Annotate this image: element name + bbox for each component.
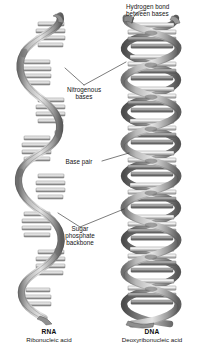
caption-rna-full-name: Ribonucleic acid bbox=[10, 336, 88, 344]
caption-rna: RNA Ribonucleic acid bbox=[10, 328, 88, 344]
caption-dna-abbr: DNA bbox=[108, 328, 196, 336]
leader-base-pair bbox=[102, 153, 129, 161]
leader-nitrogenous-right bbox=[84, 62, 126, 85]
callout-base-pair: Base pair bbox=[56, 158, 102, 165]
caption-dna-full-name: Deoxyribonucleic acid bbox=[108, 336, 196, 344]
callout-sugar-phosphate-backbone: Sugar phosphate backbone bbox=[54, 225, 106, 246]
callout-nitrogenous-bases: Nitrogenous bases bbox=[56, 86, 112, 100]
caption-rna-abbr: RNA bbox=[10, 328, 88, 336]
leader-nitrogenous-left bbox=[65, 68, 84, 85]
dna-double-helix bbox=[124, 16, 180, 328]
caption-dna: DNA Deoxyribonucleic acid bbox=[108, 328, 196, 344]
rna-single-helix bbox=[15, 14, 65, 325]
callout-hydrogen-bond: Hydrogen bond between bases bbox=[126, 3, 200, 17]
dna-rna-diagram: Hydrogen bond between bases Nitrogenous … bbox=[0, 0, 201, 352]
helix-illustration bbox=[0, 0, 201, 352]
